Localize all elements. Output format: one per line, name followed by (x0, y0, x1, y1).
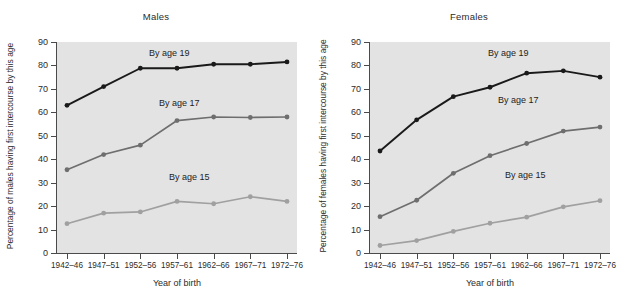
data-point (524, 71, 529, 76)
panel-males: Males Percentage of males having first i… (0, 0, 312, 304)
data-point (211, 201, 216, 206)
series-annotation-by-age-17: By age 17 (498, 95, 539, 105)
data-point (211, 115, 216, 120)
x-axis-label-males: Year of birth (57, 278, 297, 288)
data-point (248, 62, 253, 67)
data-point (598, 198, 603, 203)
data-point (285, 60, 290, 65)
series-by-age-15 (378, 198, 603, 248)
series-by-age-15 (65, 194, 290, 226)
data-point (414, 198, 419, 203)
data-point (524, 215, 529, 220)
data-point (211, 62, 216, 67)
data-point (378, 214, 383, 219)
data-point (524, 141, 529, 146)
data-point (451, 171, 456, 176)
series-lines-females (313, 0, 625, 304)
x-axis-label-females: Year of birth (370, 278, 610, 288)
series-annotation-by-age-15: By age 15 (169, 172, 210, 182)
data-point (488, 85, 493, 90)
data-point (65, 167, 70, 172)
data-point (101, 211, 106, 216)
panel-females: Females Percentage of females having fir… (313, 0, 625, 304)
data-point (65, 103, 70, 108)
data-point (138, 66, 143, 71)
data-point (101, 152, 106, 157)
series-annotation-by-age-19: By age 19 (149, 48, 190, 58)
data-point (248, 115, 253, 120)
data-point (561, 68, 566, 73)
data-point (561, 129, 566, 134)
data-point (378, 149, 383, 154)
data-point (101, 84, 106, 89)
data-point (488, 221, 493, 226)
series-by-age-17 (65, 115, 290, 173)
series-lines-males (0, 0, 312, 304)
data-point (561, 204, 566, 209)
data-point (138, 143, 143, 148)
series-annotation-by-age-17: By age 17 (159, 98, 200, 108)
data-point (414, 117, 419, 122)
data-point (175, 66, 180, 71)
data-point (598, 75, 603, 80)
figure-two-panel-line-charts: Males Percentage of males having first i… (0, 0, 625, 304)
data-point (378, 243, 383, 248)
data-point (175, 118, 180, 123)
series-line (380, 127, 600, 217)
data-point (285, 115, 290, 120)
series-line (380, 71, 600, 151)
data-point (65, 221, 70, 226)
data-point (285, 199, 290, 204)
data-point (414, 238, 419, 243)
data-point (488, 153, 493, 158)
data-point (598, 125, 603, 130)
series-annotation-by-age-15: By age 15 (505, 170, 546, 180)
series-by-age-17 (378, 125, 603, 219)
data-point (451, 229, 456, 234)
data-point (451, 94, 456, 99)
data-point (175, 199, 180, 204)
data-point (138, 210, 143, 215)
data-point (248, 194, 253, 199)
series-by-age-19 (378, 68, 603, 153)
series-line (67, 117, 287, 170)
series-annotation-by-age-19: By age 19 (488, 48, 529, 58)
